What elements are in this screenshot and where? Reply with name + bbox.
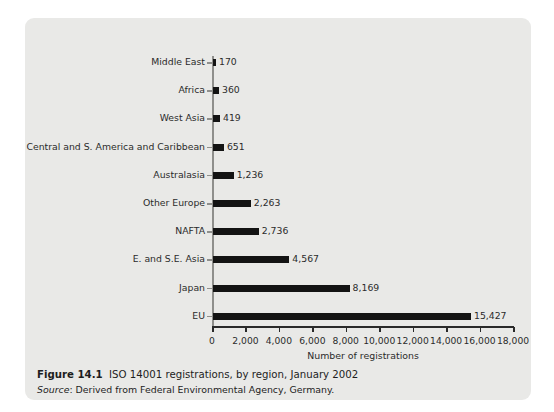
y-axis-tick <box>207 316 212 318</box>
bar-category-label: E. and S.E. Asia <box>133 253 205 265</box>
bar-row: Middle East170 <box>25 56 531 84</box>
bar-category-label: Other Europe <box>143 197 205 209</box>
bar <box>213 87 219 94</box>
x-axis-tick-label: 16,000 <box>463 335 495 346</box>
x-axis-tick <box>513 327 515 332</box>
x-axis-tick <box>446 327 448 332</box>
x-axis-tick <box>312 327 314 332</box>
bar-category-label: NAFTA <box>175 225 205 237</box>
bar-category-label: West Asia <box>160 112 205 124</box>
bar <box>213 200 251 207</box>
figure-number: Figure 14.1 <box>37 369 103 380</box>
bar <box>213 256 289 263</box>
bar-row: E. and S.E. Asia4,567 <box>25 253 531 281</box>
bar-row: Other Europe2,263 <box>25 197 531 225</box>
bar-value-label: 170 <box>219 56 237 68</box>
x-axis-tick-label: 6,000 <box>299 335 325 346</box>
y-axis-tick <box>207 118 212 120</box>
x-axis-tick-label: 12,000 <box>397 335 429 346</box>
x-axis-tick-label: 14,000 <box>430 335 462 346</box>
caption-source-line: Source: Derived from Federal Environment… <box>37 383 523 397</box>
bar-value-label: 4,567 <box>292 253 319 265</box>
bar <box>213 144 224 151</box>
x-axis-tick <box>480 327 482 332</box>
bar-value-label: 419 <box>223 112 241 124</box>
bar-row: Africa360 <box>25 84 531 112</box>
source-detail: : Derived from Federal Environmental Age… <box>69 384 334 395</box>
x-axis-tick <box>245 327 247 332</box>
bar-value-label: 15,427 <box>474 310 507 322</box>
bar-chart-plot-area: Middle East170Africa360West Asia419Centr… <box>25 18 531 328</box>
bar <box>213 59 216 66</box>
bar-value-label: 360 <box>222 84 240 96</box>
x-axis-tick <box>346 327 348 332</box>
y-axis-tick <box>207 203 212 205</box>
bar-row: Australasia1,236 <box>25 169 531 197</box>
figure-panel: Middle East170Africa360West Asia419Centr… <box>25 18 531 400</box>
bar-row: NAFTA2,736 <box>25 225 531 253</box>
bar-category-label: Central and S. America and Caribbean <box>26 141 205 153</box>
figure-caption: Figure 14.1 ISO 14001 registrations, by … <box>37 368 523 397</box>
bar-category-label: Japan <box>179 282 205 294</box>
x-axis-title: Number of registrations <box>212 350 514 361</box>
figure-title: ISO 14001 registrations, by region, Janu… <box>109 369 358 380</box>
y-axis-tick <box>207 147 212 149</box>
bar-value-label: 8,169 <box>353 282 380 294</box>
bar-value-label: 2,736 <box>262 225 289 237</box>
x-axis-tick <box>379 327 381 332</box>
x-axis-tick <box>212 327 214 332</box>
x-axis-tick <box>413 327 415 332</box>
y-axis-tick <box>207 90 212 92</box>
x-axis-tick-label: 8,000 <box>333 335 359 346</box>
bar-category-label: Middle East <box>151 56 205 68</box>
bar <box>213 228 259 235</box>
x-axis-tick-label: 4,000 <box>266 335 292 346</box>
x-axis-tick-label: 10,000 <box>363 335 395 346</box>
y-axis-tick <box>207 62 212 64</box>
bar-value-label: 651 <box>227 141 245 153</box>
bar-value-label: 2,263 <box>254 197 281 209</box>
x-axis-tick-label: 2,000 <box>232 335 258 346</box>
caption-title-line: Figure 14.1 ISO 14001 registrations, by … <box>37 368 523 382</box>
bar <box>213 285 350 292</box>
bar-row: Japan8,169 <box>25 282 531 310</box>
y-axis-tick <box>207 231 212 233</box>
bar-row: West Asia419 <box>25 112 531 140</box>
bar <box>213 172 234 179</box>
x-axis-tick-label: 18,000 <box>497 335 529 346</box>
bar-category-label: EU <box>192 310 205 322</box>
y-axis-tick <box>207 175 212 177</box>
source-label: Source <box>37 384 69 395</box>
bar-category-label: Africa <box>178 84 205 96</box>
bar <box>213 313 471 320</box>
bar-value-label: 1,236 <box>237 169 264 181</box>
y-axis-tick <box>207 259 212 261</box>
y-axis-tick <box>207 288 212 290</box>
bar <box>213 115 220 122</box>
x-axis-tick <box>279 327 281 332</box>
bar-row: Central and S. America and Caribbean651 <box>25 141 531 169</box>
x-axis-tick-label: 0 <box>209 335 215 346</box>
bar-category-label: Australasia <box>153 169 205 181</box>
bar-row: EU15,427 <box>25 310 531 338</box>
